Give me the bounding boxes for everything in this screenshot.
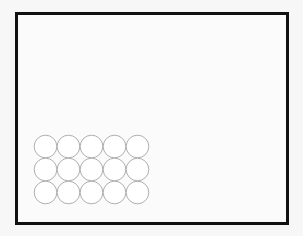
grid-circle bbox=[80, 181, 103, 204]
grid-circle bbox=[57, 181, 80, 204]
grid-circle bbox=[80, 135, 103, 158]
grid-circle bbox=[80, 158, 103, 181]
grid-circle bbox=[34, 135, 57, 158]
grid-circle bbox=[57, 135, 80, 158]
grid-circle bbox=[103, 135, 126, 158]
grid-circle bbox=[34, 181, 57, 204]
grid-circle bbox=[126, 181, 149, 204]
grid-circle bbox=[126, 158, 149, 181]
grid-circle bbox=[103, 158, 126, 181]
grid-circle bbox=[126, 135, 149, 158]
grid-circle bbox=[57, 158, 80, 181]
grid-circle bbox=[34, 158, 57, 181]
circle-grid bbox=[0, 0, 303, 236]
grid-circle bbox=[103, 181, 126, 204]
